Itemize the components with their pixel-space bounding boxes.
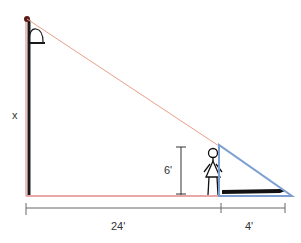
- lamp-shade-icon: [29, 29, 43, 43]
- lamp-height-label: x: [12, 109, 18, 121]
- shadow-length-label: 4': [245, 220, 253, 232]
- shadow: [222, 189, 285, 194]
- shadow-triangle: [219, 145, 292, 196]
- distance-label: 24': [111, 220, 125, 232]
- light-ray: [27, 19, 219, 146]
- diagram-canvas: 6' x 24' 4': [0, 0, 301, 243]
- person-height-label: 6': [164, 164, 172, 176]
